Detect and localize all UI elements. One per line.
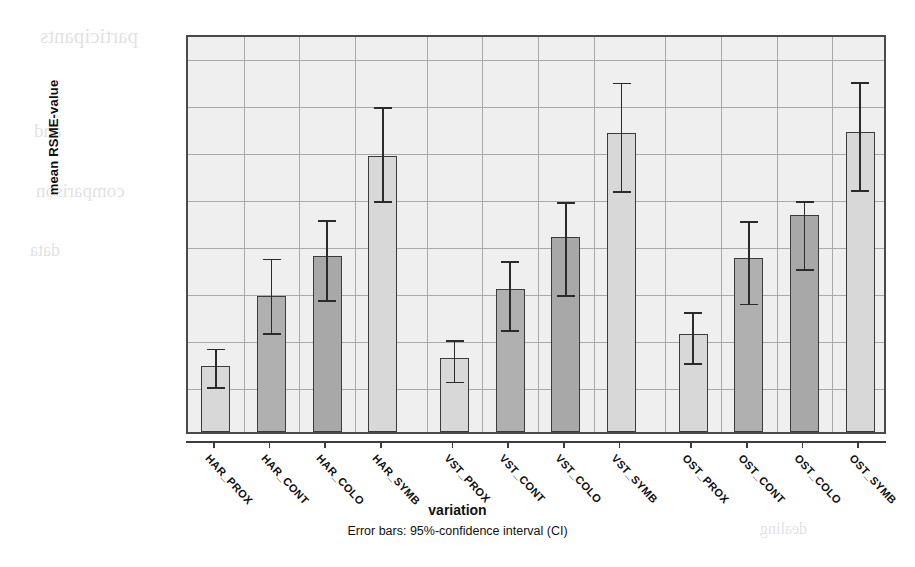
x-tick-mark [690,441,692,448]
error-bar-cap-lower [207,387,225,389]
error-bar-cap-upper [374,107,392,109]
error-bar-cap-lower [684,363,702,365]
x-tick-mark [563,441,565,448]
error-bar-cap-lower [796,269,814,271]
error-bar-cap-lower [613,191,631,193]
x-tick-label-vst_colo: VST_COLO [553,452,604,505]
error-bar-vst_colo [565,202,567,295]
x-tick-mark [746,441,748,448]
x-tick-label-vst_prox: VST_PROX [442,452,492,505]
error-bar-cap-lower [501,330,519,332]
x-tick-label-vst_symb: VST_SYMB [609,452,660,505]
error-bar-vst_symb [621,83,623,191]
error-bar-vst_cont [509,261,511,330]
error-bar-cap-upper [501,261,519,263]
error-bar-cap-upper [318,220,336,222]
x-tick-mark [857,441,859,448]
x-axis-line [186,441,886,443]
error-bar-cap-lower [557,295,575,297]
x-tick-label-har_colo: HAR_COLO [314,452,367,507]
x-tick-mark [507,441,509,448]
error-bar-cap-lower [374,201,392,203]
error-bar-ost_prox [692,312,694,363]
error-bar-cap-lower [446,382,464,384]
x-tick-mark [802,441,804,448]
error-bar-cap-upper [796,201,814,203]
x-tick-label-ost_prox: OST_PROX [680,452,731,506]
error-bar-footnote: Error bars: 95%-confidence interval (CI) [0,524,915,538]
x-tick-label-har_prox: HAR_PROX [203,452,255,507]
error-bar-cap-upper [207,349,225,351]
error-bar-har_symb [382,107,384,201]
plot-area [186,35,886,434]
bar-series-layer [188,37,884,432]
error-bar-har_cont [271,259,273,334]
x-tick-label-har_cont: HAR_CONT [259,452,311,507]
error-bar-cap-upper [613,83,631,85]
bar-chart-figure: mean RSME-value 020406080almost no effor… [0,0,915,567]
error-bar-cap-upper [851,82,869,84]
error-bar-har_prox [215,349,217,387]
error-bar-ost_colo [804,201,806,269]
y-axis-title: mean RSME-value [46,28,61,248]
x-tick-label-ost_symb: OST_SYMB [847,452,899,506]
error-bar-cap-upper [446,340,464,342]
x-tick-mark [619,441,621,448]
x-tick-label-har_symb: HAR_SYMB [370,452,423,507]
x-tick-mark [213,441,215,448]
x-tick-label-ost_colo: OST_COLO [792,452,844,506]
error-bar-cap-lower [851,190,869,192]
error-bar-cap-lower [263,333,281,335]
error-bar-vst_prox [454,340,456,381]
error-bar-cap-upper [263,259,281,261]
x-tick-mark [380,441,382,448]
error-bar-ost_symb [859,82,861,190]
error-bar-cap-lower [740,304,758,306]
error-bar-har_colo [326,220,328,300]
x-tick-label-vst_cont: VST_CONT [497,452,547,505]
error-bar-cap-lower [318,300,336,302]
x-tick-mark [324,441,326,448]
x-axis-title: variation [0,502,915,518]
x-tick-mark [269,441,271,448]
error-bar-ost_cont [748,221,750,304]
x-tick-label-ost_cont: OST_CONT [736,452,787,506]
error-bar-cap-upper [740,221,758,223]
error-bar-cap-upper [557,202,575,204]
x-tick-mark [452,441,454,448]
error-bar-cap-upper [684,312,702,314]
